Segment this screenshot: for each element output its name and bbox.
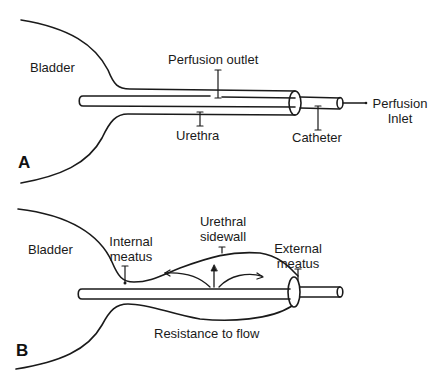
label-internal-meatus: Internal meatus [106,234,156,264]
flow-arrow-left [165,273,210,287]
label-bladder-a: Bladder [30,60,75,75]
label-external-meatus-line2: meatus [270,256,326,271]
panel-letter-b: B [16,341,28,361]
label-bladder-b: Bladder [28,242,73,257]
catheter-inlet-end-a [337,98,343,109]
external-meatus-opening-b [288,277,300,307]
panel-b-drawing [16,209,343,369]
label-perfusion-inlet-line1: Perfusion [368,96,432,111]
label-internal-meatus-line2: meatus [106,249,156,264]
catheter-exterior-b [300,287,340,297]
label-resistance-to-flow: Resistance to flow [154,326,260,341]
label-external-meatus: External meatus [270,241,326,271]
label-urethral-sidewall-line1: Urethral [196,214,250,229]
label-internal-meatus-line1: Internal [106,234,156,249]
label-perfusion-outlet: Perfusion outlet [168,52,258,67]
pointer-catheter [315,106,321,130]
label-catheter: Catheter [292,130,342,145]
label-perfusion-inlet: Perfusion Inlet [368,96,432,126]
pointer-urethral-sidewall [219,247,225,253]
bladder-wall-lower-a [21,114,295,183]
label-urethra-a: Urethra [176,128,219,143]
label-external-meatus-line1: External [270,241,326,256]
flow-arrow-right [219,274,262,287]
pointer-perfusion-outlet [215,70,221,98]
panel-a-drawing [21,20,367,183]
catheter-exterior-a [300,97,340,109]
label-perfusion-inlet-line2: Inlet [368,111,432,126]
label-urethral-sidewall: Urethral sidewall [196,214,250,244]
panel-letter-a: A [18,153,30,173]
label-urethral-sidewall-line2: sidewall [196,229,250,244]
catheter-body-a [79,96,295,107]
catheter-end-b [337,287,343,297]
catheter-body-b [78,289,290,299]
urethra-opening-a [289,91,301,115]
